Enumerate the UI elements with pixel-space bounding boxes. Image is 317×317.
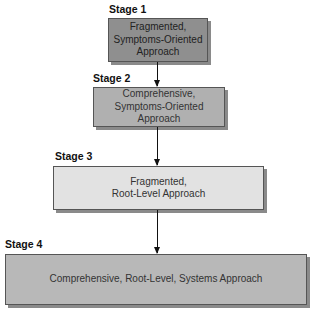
stage-4-label: Stage 4	[5, 238, 42, 250]
stage-2-text: Comprehensive, Symptoms-Oriented Approac…	[115, 88, 204, 126]
stage-3-label: Stage 3	[55, 150, 92, 162]
arrow-1-to-2	[157, 62, 158, 86]
stage-1-box: Fragmented, Symptoms-Oriented Approach	[108, 18, 208, 62]
stage-1-text: Fragmented, Symptoms-Oriented Approach	[114, 21, 203, 59]
stage-4-text: Comprehensive, Root-Level, Systems Appro…	[50, 273, 263, 286]
stage-3-box: Fragmented, Root-Level Approach	[53, 166, 264, 210]
stage-2-label: Stage 2	[93, 72, 130, 84]
arrow-2-to-3	[157, 127, 158, 165]
arrow-3-to-4	[157, 210, 158, 253]
stage-1-label: Stage 1	[109, 3, 146, 15]
stage-4-box: Comprehensive, Root-Level, Systems Appro…	[5, 254, 307, 305]
stage-2-box: Comprehensive, Symptoms-Oriented Approac…	[93, 87, 225, 127]
stage-3-text: Fragmented, Root-Level Approach	[112, 176, 205, 201]
